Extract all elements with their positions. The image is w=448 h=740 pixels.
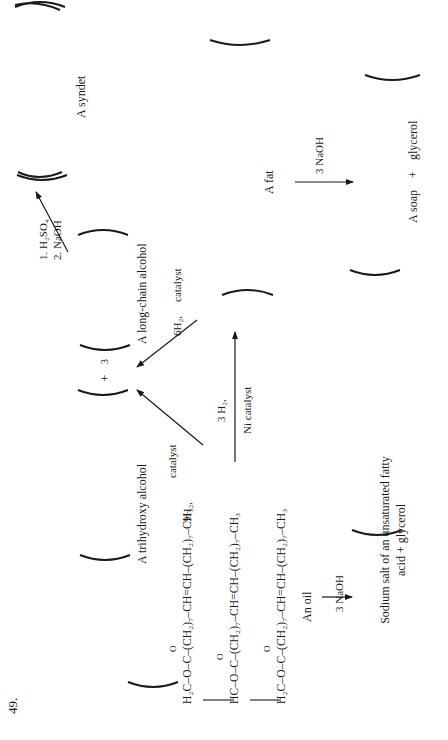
soap-label: A soap — [406, 190, 420, 223]
carbonyl-o-2: O — [213, 654, 227, 661]
chemistry-problem-page: 49. H₂C–O–C–(CH₂)₇–CH=CH–(CH₂)₇–CH₃ O HC… — [0, 0, 448, 740]
trihydroxy-alcohol-label: A trihydroxy alcohol — [135, 464, 149, 564]
blank-trihydroxy-left — [80, 555, 130, 560]
blank-soap-left — [350, 270, 400, 275]
blank-long-chain-left — [80, 345, 130, 350]
problem-number: 49. — [6, 698, 20, 714]
carbonyl-o-3: O — [260, 646, 274, 653]
triglyceride-row-1: H₂C–O–C–(CH₂)₇–CH=CH–(CH₂)₇–CH₃ — [180, 509, 194, 704]
blank-partial-left — [222, 290, 273, 295]
row-head: HC — [228, 688, 240, 704]
coefficient-3: 3 — [98, 359, 112, 364]
arrow-full-hydrogenation — [137, 390, 203, 445]
blank-trihydroxy-right — [78, 390, 128, 395]
sulfonation-step-1: 1. H₂SO₄ — [36, 219, 50, 260]
long-chain-alcohol-label: A long-chain alcohol — [135, 243, 149, 344]
plus-sign: + — [98, 375, 112, 382]
oil-reagent: 3 NaOH — [332, 575, 346, 612]
blank-sodium-salt-left — [128, 682, 178, 687]
blank-long-chain-right — [78, 230, 128, 235]
carbonyl-o-1: O — [166, 646, 180, 653]
triglyceride-row-2: HC–O–C–(CH₂)₇–CH=CH–(CH₂)₇–CH₃ — [227, 513, 241, 704]
hydrogenolysis-reagent-bottom: catalyst — [170, 268, 184, 302]
row-chain: –O–C–(CH₂)₇–CH=CH–(CH₂)₇–CH₃ — [181, 509, 193, 684]
partial-hydrogenation-reagent-bottom: Ni catalyst — [240, 387, 254, 434]
hydrogenolysis-reagent-top: 6H₂, — [170, 316, 184, 336]
oil-product-line-2: acid + glycerol — [394, 440, 408, 640]
triglyceride-row-3: H₂C–O–C–(CH₂)₇–CH=CH–(CH₂)₇–CH₃ — [274, 509, 288, 704]
hydrogenation-reagent-bottom: catalyst — [165, 444, 179, 478]
glycerol-label: glycerol — [406, 121, 420, 160]
partial-hydrogenation-reagent-top: 3 H₂, — [214, 399, 228, 422]
syndet-label: A syndet — [74, 76, 88, 118]
fat-label: A fat — [262, 170, 276, 194]
oil-product-line-1: Sodium salt of an unsaturated fatty — [378, 440, 392, 640]
blank-parentheses — [14, 0, 64, 177]
oil-label: An oil — [300, 592, 314, 622]
hydrogenation-reagent-top: 9H₂, — [180, 502, 194, 522]
blank-partial-right — [210, 40, 270, 45]
row-head: H₂C — [275, 684, 287, 704]
blank-soap-right — [365, 75, 420, 80]
row-head: H₂C — [181, 684, 193, 704]
row-chain: –O–C–(CH₂)₇–CH=CH–(CH₂)₇–CH₃ — [228, 513, 240, 688]
sulfonation-step-2: 2. NaOH — [50, 220, 64, 260]
soap-plus-sign: + — [406, 171, 420, 178]
row-chain: –O–C–(CH₂)₇–CH=CH–(CH₂)₇–CH₃ — [275, 509, 287, 684]
fat-reagent: 3 NaOH — [312, 137, 326, 174]
